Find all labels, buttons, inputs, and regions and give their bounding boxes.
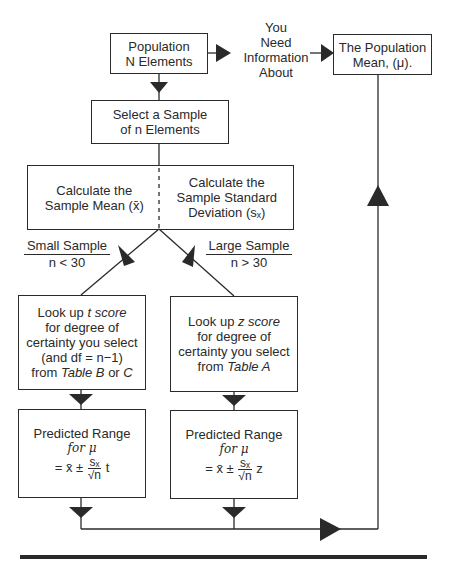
- select-sample-label: Select a Sample: [113, 107, 208, 122]
- range-param: for μ: [219, 442, 248, 457]
- text: Look up: [38, 305, 88, 320]
- table-ref: C: [123, 365, 132, 380]
- fraction: sₓ√n: [238, 457, 251, 483]
- select-sample-box: Select a Sample of n Elements: [91, 100, 229, 144]
- formula-factor: t: [106, 460, 110, 475]
- text-line: Information: [232, 50, 320, 65]
- text-line: You: [232, 20, 320, 35]
- z-line2: for degree of: [197, 329, 271, 344]
- numerator: sₓ: [240, 457, 250, 469]
- bottom-rule: [20, 555, 427, 559]
- t-line3: certainty you select: [26, 335, 137, 350]
- text: Look up: [188, 314, 238, 329]
- population-mean-box: The Population Mean, (μ).: [333, 34, 432, 75]
- population-box: Population N Elements: [110, 33, 208, 74]
- t-score-box: Look up t score for degree of certainty …: [18, 295, 146, 390]
- calculate-box: Calculate the Sample Mean (x̄) Calculate…: [27, 165, 294, 230]
- text: from: [198, 359, 228, 374]
- calc-mean-line: Calculate the: [56, 183, 132, 198]
- z-line3: certainty you select: [178, 344, 289, 359]
- t-line1: Look up t score: [38, 305, 127, 320]
- z-formula: = x̄ ± sₓ√n z: [205, 457, 262, 483]
- denominator: √n: [238, 469, 251, 483]
- select-sample-size: of n Elements: [120, 122, 200, 137]
- t-range-box: Predicted Range for μ = x̄ ± sₓ√n t: [18, 409, 146, 498]
- population-mean-label: The Population: [339, 40, 426, 55]
- calc-mean-section: Calculate the Sample Mean (x̄): [28, 166, 161, 229]
- text-line: Need: [232, 35, 320, 50]
- population-label: Population: [128, 39, 189, 54]
- t-line4: (and df = n−1): [41, 350, 123, 365]
- formula-factor: z: [256, 461, 263, 476]
- calc-sd-section: Calculate the Sample Standard Deviation …: [161, 166, 294, 229]
- range-param: for μ: [67, 441, 96, 456]
- z-score-term: z score: [238, 314, 280, 329]
- z-line4: from Table A: [198, 359, 271, 374]
- range-title: Predicted Range: [186, 427, 283, 442]
- calc-sd-line: Calculate the: [189, 175, 265, 190]
- large-sample-label: Large Sample n > 30: [206, 238, 292, 270]
- population-mean-symbol: Mean, (μ).: [353, 55, 413, 70]
- z-line1: Look up z score: [188, 314, 280, 329]
- range-title: Predicted Range: [34, 426, 131, 441]
- table-ref: Table A: [227, 359, 270, 374]
- text: from: [31, 365, 61, 380]
- text-line: About: [232, 65, 320, 80]
- t-formula: = x̄ ± sₓ√n t: [55, 456, 110, 482]
- formula-prefix: = x̄ ±: [55, 460, 83, 475]
- small-sample-label: Small Sample n < 30: [24, 238, 110, 270]
- large-sample-condition: n > 30: [231, 255, 268, 270]
- large-sample-title: Large Sample: [206, 238, 292, 255]
- z-score-box: Look up z score for degree of certainty …: [170, 296, 298, 392]
- table-ref: Table B: [61, 365, 105, 380]
- fraction: sₓ√n: [88, 456, 101, 482]
- need-info-text: You Need Information About: [232, 20, 320, 80]
- small-sample-title: Small Sample: [24, 238, 110, 255]
- text: or: [105, 365, 124, 380]
- t-line5: from Table B or C: [31, 365, 132, 380]
- small-sample-condition: n < 30: [49, 255, 86, 270]
- formula-prefix: = x̄ ±: [205, 461, 233, 476]
- t-line2: for degree of: [45, 320, 119, 335]
- numerator: sₓ: [89, 456, 99, 468]
- population-size: N Elements: [125, 54, 192, 69]
- t-score-term: t score: [87, 305, 126, 320]
- denominator: √n: [88, 468, 101, 482]
- calc-mean-line: Sample Mean (x̄): [45, 198, 144, 213]
- calc-sd-line: Sample Standard: [177, 190, 277, 205]
- calc-sd-line: Deviation (sₓ): [188, 205, 265, 220]
- z-range-box: Predicted Range for μ = x̄ ± sₓ√n z: [170, 410, 298, 499]
